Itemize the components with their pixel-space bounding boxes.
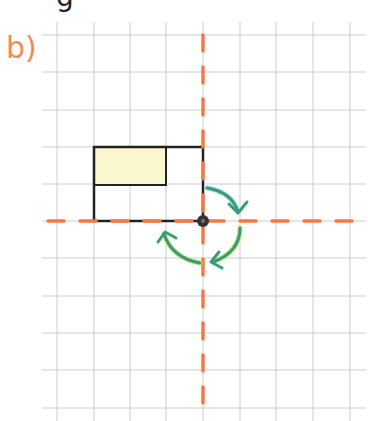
shaded-rectangle [94,147,166,185]
rotation-center-highlight [201,219,205,223]
grid-diagram [0,0,368,421]
